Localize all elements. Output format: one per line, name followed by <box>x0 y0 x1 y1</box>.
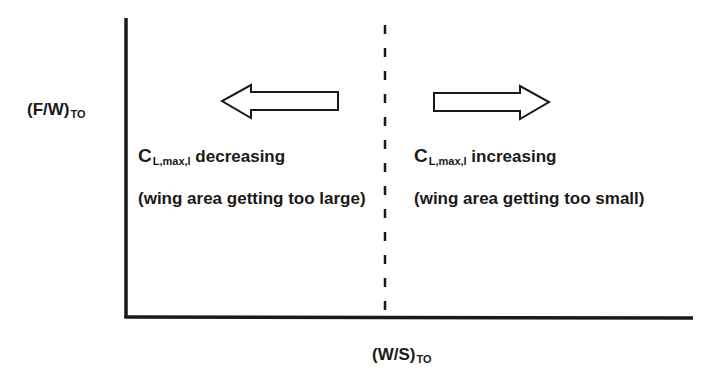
left-region: CL,max,l decreasing (wing area getting t… <box>138 145 388 209</box>
cl-subscript: L,max,l <box>153 155 191 167</box>
x-axis-label: (W/S)TO <box>372 344 432 367</box>
x-axis-label-sub: TO <box>416 353 431 365</box>
right-region-note: (wing area getting too small) <box>414 188 664 209</box>
cl-subscript: L,max,l <box>429 155 467 167</box>
right-region-title-text: increasing <box>467 147 557 166</box>
y-axis-label: (F/W)TO <box>27 99 86 122</box>
right-region: CL,max,l increasing (wing area getting t… <box>414 145 664 209</box>
right-region-title: CL,max,l increasing <box>414 145 664 169</box>
arrow-left-icon <box>222 85 338 118</box>
x-axis-label-main: (W/S) <box>372 345 415 364</box>
y-axis-label-sub: TO <box>70 108 85 120</box>
left-region-title-text: decreasing <box>191 147 286 166</box>
left-region-title: CL,max,l decreasing <box>138 145 388 169</box>
cl-symbol: C <box>138 145 152 166</box>
left-region-note: (wing area getting too large) <box>138 188 388 209</box>
x-axis <box>125 317 694 318</box>
y-axis-label-main: (F/W) <box>27 100 69 119</box>
arrow-right-icon <box>434 86 549 119</box>
cl-symbol: C <box>414 145 428 166</box>
